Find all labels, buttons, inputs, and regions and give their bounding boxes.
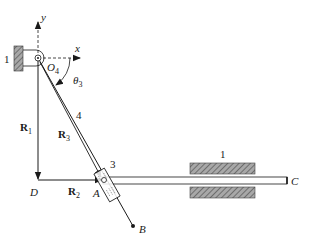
point-b [131, 224, 135, 228]
x-axis-label: x [74, 42, 80, 54]
label-r3: R3 [58, 128, 70, 143]
label-r1: R1 [20, 121, 32, 136]
label-slider: 3 [110, 158, 116, 170]
label-theta3: θ3 [73, 74, 82, 89]
label-r2: R2 [68, 185, 80, 200]
y-axis-label: y [40, 11, 46, 23]
pivot-o4-center [37, 57, 39, 59]
label-o4: O4 [47, 61, 59, 76]
label-ground-right: 1 [220, 148, 226, 160]
label-point-b: B [139, 223, 146, 235]
pin-a [102, 178, 107, 183]
label-ground-left: 1 [4, 53, 10, 65]
label-point-d: D [29, 186, 38, 198]
crank-link-4 [38, 58, 133, 226]
label-link-4: 4 [76, 109, 82, 121]
label-point-c: C [291, 175, 299, 187]
rod-link-2 [103, 177, 287, 184]
label-point-a: A [92, 187, 100, 199]
mechanism-diagram: 1 y x R1 R2 2 C 1 4 R3 [0, 0, 311, 246]
